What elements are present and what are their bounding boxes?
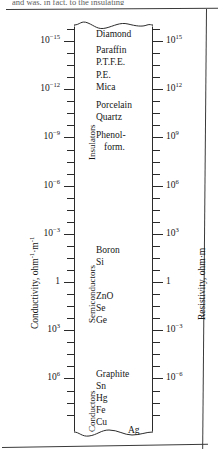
figure-canvas: and was, in fact, to the insulating 10−1… <box>0 0 222 459</box>
material-label: Si <box>96 258 104 268</box>
material-label: Sn <box>96 382 106 392</box>
material-label: Fe <box>96 406 106 416</box>
tick-label-left-0: 10−15 <box>40 36 60 46</box>
axis-tick-left-minor <box>67 210 74 211</box>
axis-tick-right-minor <box>153 198 160 199</box>
tick-label-exponent: 6 <box>176 177 179 184</box>
tick-label-base: 10 <box>40 83 50 93</box>
tick-label-base: 1 <box>166 276 171 286</box>
axis-tick-right-minor <box>153 270 160 271</box>
axis-tick-left-minor <box>67 366 74 367</box>
material-label: ZnO <box>96 292 113 302</box>
axis-tick-right-minor <box>153 366 160 367</box>
axis-tick-left-major <box>64 282 74 283</box>
tick-label-base: 10 <box>166 228 176 238</box>
axis-tick-left-minor <box>67 150 74 151</box>
axis-tick-right-major <box>153 137 163 138</box>
page-rule-bottom <box>2 444 208 448</box>
axis-tick-left-minor <box>67 246 74 247</box>
axis-tick-right-minor <box>153 258 160 259</box>
page-rule-top <box>6 8 218 10</box>
tick-label-right-2: 109 <box>166 132 179 142</box>
axis-tick-right-minor <box>153 29 160 30</box>
tick-label-left-5: 1 <box>55 277 60 287</box>
axis-tick-right-minor <box>153 294 160 295</box>
material-label: form. <box>104 143 125 153</box>
axis-tick-right-minor <box>153 403 160 404</box>
axis-tick-left-minor <box>67 29 74 30</box>
tick-label-base: 10 <box>43 131 53 141</box>
tick-label-right-0: 1015 <box>166 36 182 46</box>
material-label: Mica <box>96 83 116 93</box>
axis-tick-right-minor <box>153 53 160 54</box>
axis-tick-right-minor <box>153 113 160 114</box>
axis-tick-left-minor <box>67 101 74 102</box>
axis-tick-left-minor <box>67 222 74 223</box>
tick-label-left-7: 106 <box>47 373 60 383</box>
axis-tick-left-minor <box>67 270 74 271</box>
material-label: Hg <box>96 394 108 404</box>
tick-label-exponent: 3 <box>57 322 60 329</box>
material-label: P.E. <box>96 71 111 81</box>
axis-tick-left-minor <box>67 294 74 295</box>
axis-tick-right-major <box>153 282 163 283</box>
tick-label-base: 10 <box>166 131 176 141</box>
axis-tick-left-minor <box>67 174 74 175</box>
axis-tick-left-minor <box>67 391 74 392</box>
axis-tick-right-minor <box>153 342 160 343</box>
axis-tick-right-minor <box>153 65 160 66</box>
tick-label-base: 10 <box>166 324 176 334</box>
tick-label-base: 10 <box>166 180 176 190</box>
tick-label-exponent: −6 <box>176 370 183 377</box>
tick-label-exponent: −12 <box>50 81 60 88</box>
axis-tick-right-minor <box>153 246 160 247</box>
tick-label-base: 10 <box>47 372 57 382</box>
tick-label-base: 10 <box>43 228 53 238</box>
axis-tick-right-major <box>153 234 163 235</box>
tick-label-exponent: 6 <box>57 370 60 377</box>
conductivity-exp-2: -1 <box>28 237 35 243</box>
tick-label-exponent: −6 <box>53 177 60 184</box>
tick-label-exponent: 3 <box>176 226 179 233</box>
axis-tick-right-major <box>153 41 163 42</box>
axis-tick-right-minor <box>153 415 160 416</box>
tick-label-base: 1 <box>55 276 60 286</box>
axis-tick-right-minor <box>153 77 160 78</box>
axis-tick-left-minor <box>67 403 74 404</box>
axis-tick-left-minor <box>67 354 74 355</box>
axis-tick-right-major <box>153 186 163 187</box>
axis-tick-left-major <box>64 234 74 235</box>
tick-label-base: 10 <box>47 324 57 334</box>
tick-label-base: 10 <box>166 83 176 93</box>
tick-label-base: 10 <box>43 180 53 190</box>
material-label: Quartz <box>96 113 122 123</box>
tick-label-right-3: 106 <box>166 181 179 191</box>
resistivity-axis-title: Resistivity, ohm·m <box>197 248 207 320</box>
tick-label-right-4: 103 <box>166 229 179 239</box>
scale-break-bottom-icon <box>74 425 153 438</box>
tick-label-left-3: 10−6 <box>43 181 60 191</box>
axis-tick-left-minor <box>67 342 74 343</box>
tick-label-right-1: 1012 <box>166 84 182 94</box>
axis-tick-left-minor <box>67 415 74 416</box>
axis-tick-right-major <box>153 378 163 379</box>
tick-label-exponent: −3 <box>53 226 60 233</box>
axis-tick-right-minor <box>153 150 160 151</box>
axis-tick-left-major <box>64 330 74 331</box>
axis-tick-right-minor <box>153 318 160 319</box>
axis-tick-left-major <box>64 41 74 42</box>
axis-tick-left-minor <box>67 53 74 54</box>
material-label: Se <box>96 304 106 314</box>
axis-tick-right-minor <box>153 162 160 163</box>
material-label: Paraffin <box>96 46 126 56</box>
axis-tick-left-minor <box>67 125 74 126</box>
tick-label-left-1: 10−12 <box>40 84 60 94</box>
tick-label-left-6: 103 <box>47 325 60 335</box>
tick-label-exponent: 12 <box>176 81 183 88</box>
tick-label-left-2: 10−9 <box>43 132 60 142</box>
conductivity-axis-title-text: Conductivity, ohm <box>30 258 40 329</box>
scale-break-top-icon <box>74 21 153 34</box>
page-rule-right <box>202 9 207 449</box>
material-label: Ge <box>96 316 107 326</box>
axis-tick-right-minor <box>153 174 160 175</box>
